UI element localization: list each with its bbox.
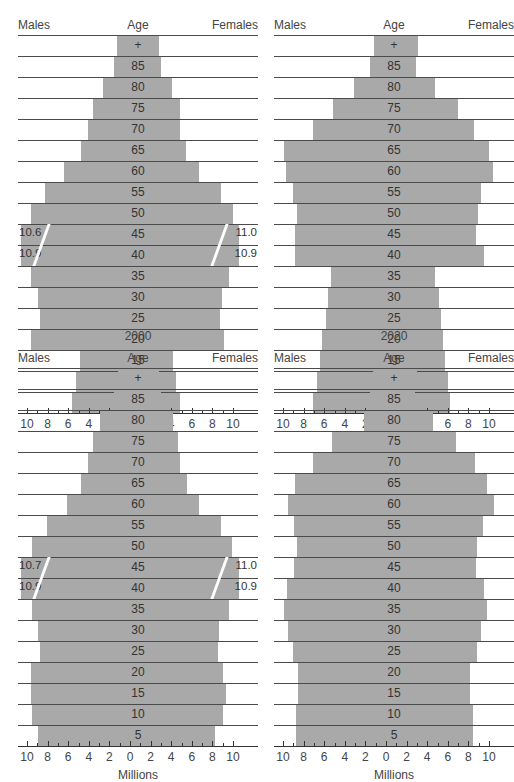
age-row: 35 <box>274 266 514 287</box>
axis-tick-label: 6 <box>438 750 458 764</box>
age-group-label: 45 <box>274 227 514 241</box>
age-row: 50 <box>18 203 258 224</box>
age-group-label: 30 <box>274 290 514 304</box>
age-group-label: 25 <box>18 644 258 658</box>
axis-tick <box>171 741 172 746</box>
age-row: 65 <box>274 473 514 494</box>
age-group-label: 10 <box>274 707 514 721</box>
axis-tick <box>365 741 366 746</box>
axis-tick <box>130 741 131 746</box>
age-group-label: 15 <box>274 686 514 700</box>
age-row: 60 <box>18 494 258 515</box>
axis-tick-label: 8 <box>202 750 222 764</box>
axis-tick <box>48 741 49 746</box>
age-row: 80 <box>18 410 258 431</box>
axis-tick <box>335 743 336 746</box>
age-group-label: 60 <box>274 497 514 511</box>
females-label: Females <box>468 18 514 32</box>
axis-tick-label: 4 <box>79 750 99 764</box>
age-group-label: + <box>274 371 514 385</box>
axis-tick <box>407 741 408 746</box>
females-label: Females <box>212 351 258 365</box>
axis-tick <box>223 743 224 746</box>
age-row: 4010.910.9 <box>18 245 258 266</box>
age-group-label: 35 <box>274 269 514 283</box>
axis-tick-label: 4 <box>335 750 355 764</box>
females-label: Females <box>212 18 258 32</box>
age-group-label: 80 <box>18 80 258 94</box>
age-row: 25 <box>274 641 514 662</box>
axis-tick <box>345 741 346 746</box>
axis-tick <box>79 743 80 746</box>
age-group-label: 5 <box>274 728 514 742</box>
age-group-label: 5 <box>18 728 258 742</box>
axis-tick <box>355 743 356 746</box>
age-row: 80 <box>274 410 514 431</box>
axis-tick <box>27 741 28 746</box>
axis-tick <box>468 741 469 746</box>
axis-tick-label: 6 <box>182 750 202 764</box>
age-group-label: 80 <box>274 80 514 94</box>
axis-tick-label: 2 <box>355 750 375 764</box>
age-group-label: 35 <box>18 269 258 283</box>
age-row: + <box>18 368 258 389</box>
pyramid-header: MalesAgeFemales <box>18 351 258 367</box>
age-group-label: 35 <box>274 602 514 616</box>
age-row: 25 <box>274 308 514 329</box>
age-row: 55 <box>18 182 258 203</box>
age-group-label: 60 <box>18 497 258 511</box>
age-group-label: 25 <box>18 311 258 325</box>
axis-tick <box>58 743 59 746</box>
age-row: 30 <box>274 287 514 308</box>
age-group-label: 70 <box>274 122 514 136</box>
age-row: 85 <box>18 56 258 77</box>
age-group-label: 85 <box>274 59 514 73</box>
age-row: 45 <box>274 224 514 245</box>
axis-tick-label: 10 <box>223 750 243 764</box>
axis-unit-label: Millions <box>274 768 514 782</box>
age-row: 85 <box>274 389 514 410</box>
age-group-label: 65 <box>18 476 258 490</box>
age-group-label: 80 <box>18 413 258 427</box>
age-group-label: 10 <box>18 707 258 721</box>
axis-tick <box>324 741 325 746</box>
male-value-annotation: 10.7 <box>19 559 41 571</box>
age-row: 25 <box>18 308 258 329</box>
axis-tick-label: 2 <box>99 750 119 764</box>
age-group-label: 75 <box>18 434 258 448</box>
age-group-label: + <box>274 38 514 52</box>
age-group-label: 60 <box>18 164 258 178</box>
axis-tick <box>99 743 100 746</box>
age-group-label: + <box>18 371 258 385</box>
x-axis: 1086420246810Millions <box>18 746 258 774</box>
age-row: 65 <box>274 140 514 161</box>
age-row: 40 <box>274 578 514 599</box>
axis-tick <box>293 743 294 746</box>
axis-tick <box>140 743 141 746</box>
age-row: 75 <box>274 98 514 119</box>
axis-tick <box>161 743 162 746</box>
age-row: 65 <box>18 140 258 161</box>
axis-tick <box>489 741 490 746</box>
age-group-label: 40 <box>274 581 514 595</box>
axis-tick <box>314 743 315 746</box>
pyramid-header: MalesAgeFemales <box>18 18 258 34</box>
axis-tick-label: 0 <box>376 750 396 764</box>
pyramid-header: MalesAgeFemales <box>274 351 514 367</box>
age-group-label: 70 <box>18 122 258 136</box>
age-row: 10 <box>274 704 514 725</box>
age-group-label: 70 <box>18 455 258 469</box>
age-row: 75 <box>18 431 258 452</box>
age-row: 65 <box>18 473 258 494</box>
age-row: 45 <box>274 557 514 578</box>
axis-tick <box>68 741 69 746</box>
age-group-label: 50 <box>274 206 514 220</box>
age-row: 60 <box>18 161 258 182</box>
age-row: 50 <box>274 536 514 557</box>
age-row: + <box>274 368 514 389</box>
age-group-label: 25 <box>274 311 514 325</box>
age-row: 30 <box>274 620 514 641</box>
age-group-label: 65 <box>274 143 514 157</box>
age-group-label: 75 <box>274 101 514 115</box>
age-row: 30 <box>18 620 258 641</box>
